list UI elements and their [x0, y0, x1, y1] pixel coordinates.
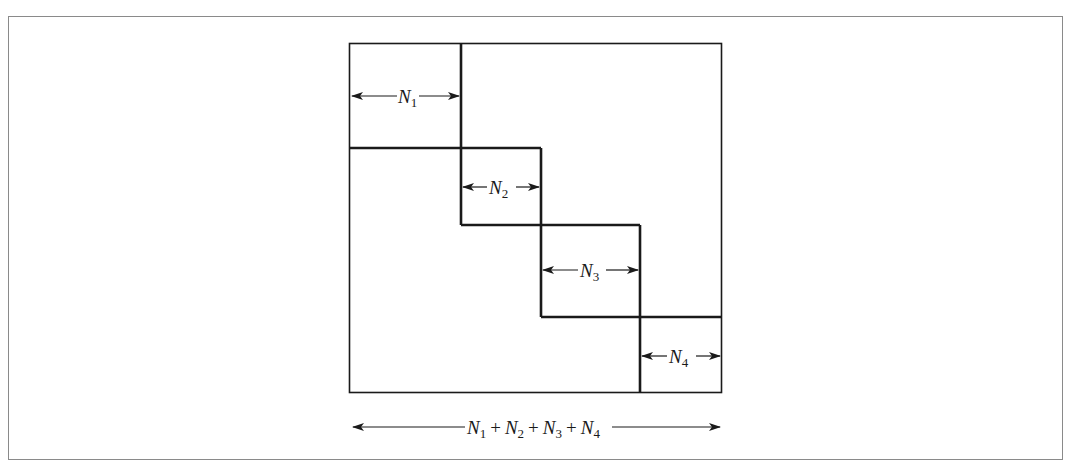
block-1-dimension: N1 [352, 86, 459, 110]
block-4-dimension: N4 [642, 346, 720, 370]
block-3-label: N3 [579, 260, 599, 284]
total-dimension: N1+N2+N3+N4 [353, 417, 720, 441]
total-label: N1+N2+N3+N4 [466, 417, 600, 441]
block-3-dimension: N3 [543, 260, 638, 284]
block-2-dimension: N2 [463, 177, 539, 201]
block-1-label: N1 [397, 86, 417, 110]
block-2-label: N2 [488, 177, 508, 201]
block-4-label: N4 [668, 346, 689, 370]
block-matrix-diagram: N1 N2 N3 N4 N1+N2+N3+N4 [0, 0, 1073, 469]
